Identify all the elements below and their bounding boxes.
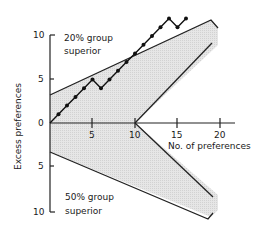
y-tick-0: 0 — [38, 118, 44, 128]
data-point — [108, 78, 112, 82]
data-point — [159, 25, 163, 29]
data-point — [65, 104, 69, 108]
data-point — [133, 51, 137, 55]
data-point — [74, 95, 78, 99]
data-point — [99, 86, 103, 90]
annotation-upper-line2: superior — [64, 46, 101, 56]
data-point — [91, 78, 95, 82]
y-axis-label: Excess preferences — [13, 83, 23, 170]
annotation-lower-line2: superior — [65, 206, 102, 216]
data-point — [82, 86, 86, 90]
data-point — [176, 25, 180, 29]
x-tick-20: 20 — [214, 130, 225, 140]
y-tick-5-upper: 5 — [38, 74, 44, 84]
data-point — [142, 43, 146, 47]
x-axis-label: No. of preferences — [168, 141, 251, 151]
y-tick-10-upper: 10 — [33, 30, 44, 40]
x-tick-5: 5 — [89, 130, 95, 140]
y-tick-5-lower: 5 — [38, 161, 44, 171]
annotation-lower-line1: 50% group — [65, 192, 114, 202]
data-point — [125, 60, 129, 64]
data-point — [184, 17, 188, 21]
data-point — [150, 34, 154, 38]
data-point — [57, 112, 61, 116]
annotation-upper-line1: 20% group — [64, 33, 113, 43]
data-point — [116, 69, 120, 73]
x-tick-10: 10 — [129, 130, 140, 140]
y-tick-10-lower: 10 — [33, 207, 44, 217]
x-tick-15: 15 — [171, 130, 182, 140]
data-point — [167, 17, 171, 21]
